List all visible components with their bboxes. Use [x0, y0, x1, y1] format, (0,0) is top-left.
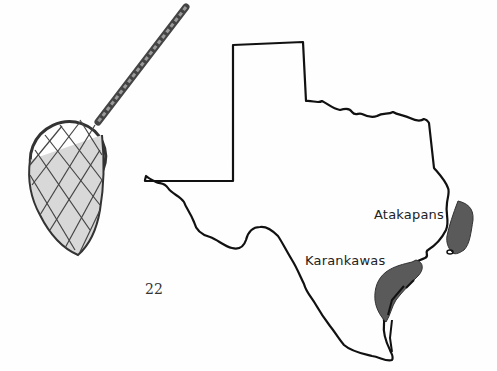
dip-net-icon	[18, 7, 186, 255]
illustration-canvas	[0, 0, 497, 371]
texas-outline	[145, 42, 449, 360]
page-number: 22	[145, 281, 163, 297]
atakapans-region	[447, 201, 473, 254]
map-label-karankawas: Karankawas	[305, 253, 385, 268]
book-page: Atakapans Karankawas 22	[0, 0, 497, 371]
map-label-atakapans: Atakapans	[374, 207, 444, 222]
